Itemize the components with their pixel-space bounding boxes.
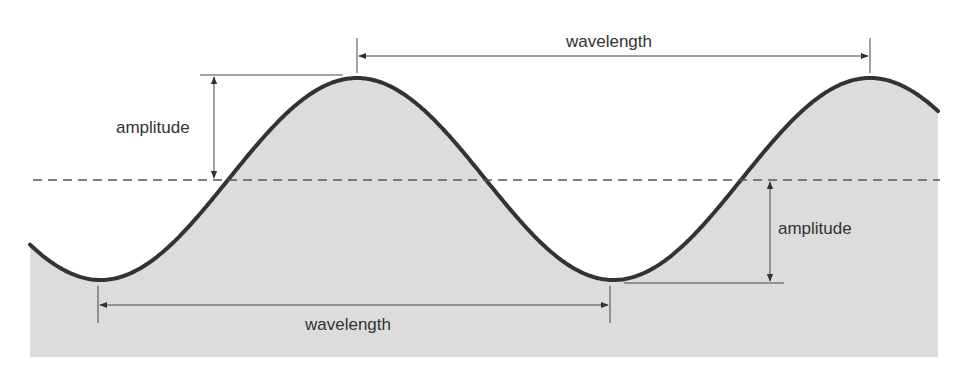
amplitude-right-label: amplitude xyxy=(778,219,852,238)
wave-diagram: wavelength amplitude amplitude wavelengt… xyxy=(0,0,965,373)
amplitude-left-label: amplitude xyxy=(116,118,190,137)
wavelength-top-label: wavelength xyxy=(565,32,652,51)
wavelength-bottom-label: wavelength xyxy=(304,315,391,334)
